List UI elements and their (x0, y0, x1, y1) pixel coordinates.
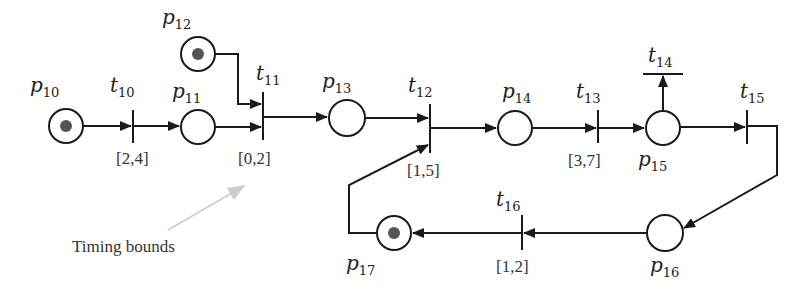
timing-bound-t12: [1,5] (407, 161, 440, 180)
transition-label-t14: t14 (648, 43, 673, 70)
token-p17 (388, 227, 400, 239)
token-p10 (60, 120, 72, 132)
token-p12 (192, 48, 204, 60)
place-label-p16: p16 (650, 253, 679, 280)
place-p16 (647, 215, 683, 251)
timing-bound-t10: [2,4] (116, 149, 149, 168)
arc-p12-to-t11 (215, 54, 261, 104)
transition-label-t16: t16 (496, 187, 521, 214)
transition-label-t10: t10 (110, 73, 135, 100)
timing-bounds-pointer-arrow (168, 186, 244, 230)
place-p15 (646, 111, 680, 145)
place-label-p14: p14 (502, 79, 531, 106)
timing-bound-t11: [0,2] (238, 149, 271, 168)
place-label-p11: p11 (172, 79, 201, 106)
place-label-p12: p12 (162, 5, 191, 32)
timing-bound-t13: [3,7] (568, 151, 601, 170)
transition-label-t13: t13 (576, 79, 601, 106)
petri-net-canvas: t10[2,4]t11[0,2]t12[1,5]t13[3,7]t14t15t1… (0, 0, 801, 299)
transition-label-t15: t15 (740, 79, 765, 106)
arc-t15-to-p16 (684, 126, 777, 228)
place-label-p10: p10 (30, 73, 59, 100)
place-p11 (181, 110, 215, 144)
annotation-layer: Timing bounds (72, 186, 244, 256)
timing-bounds-note: Timing bounds (72, 237, 175, 256)
transition-label-t12: t12 (408, 73, 433, 100)
timing-bound-t16: [1,2] (496, 257, 529, 276)
petri-net-diagram: t10[2,4]t11[0,2]t12[1,5]t13[3,7]t14t15t1… (0, 0, 801, 299)
places-layer (49, 37, 683, 251)
place-label-p17: p17 (346, 251, 375, 278)
transition-label-t11: t11 (256, 61, 281, 88)
place-label-p15: p15 (638, 147, 667, 174)
place-label-p13: p13 (322, 69, 351, 96)
place-p13 (329, 100, 365, 136)
place-p14 (498, 111, 532, 145)
